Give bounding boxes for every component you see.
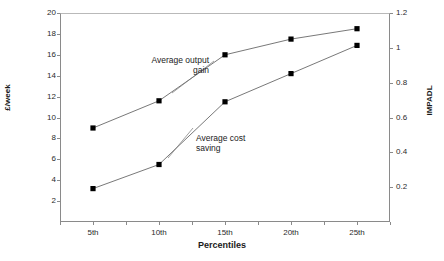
annotation-leader-line-cost — [168, 128, 193, 158]
series-marker — [156, 98, 161, 103]
series-line — [93, 29, 357, 128]
series-marker — [354, 43, 359, 48]
series-marker — [222, 52, 227, 57]
series-marker — [90, 186, 95, 191]
series-marker — [90, 125, 95, 130]
annotation-average-output-gain: Average output gain — [117, 55, 209, 75]
series-marker — [354, 26, 359, 31]
annotation-average-cost-saving: Average cost saving — [196, 133, 288, 153]
series-lines — [0, 0, 444, 261]
series-marker — [222, 99, 227, 104]
series-marker — [288, 37, 293, 42]
chart-figure: 2468101214161820 0.20.40.60.811.2 5th10t… — [0, 0, 444, 261]
series-marker — [156, 162, 161, 167]
series-marker — [288, 71, 293, 76]
